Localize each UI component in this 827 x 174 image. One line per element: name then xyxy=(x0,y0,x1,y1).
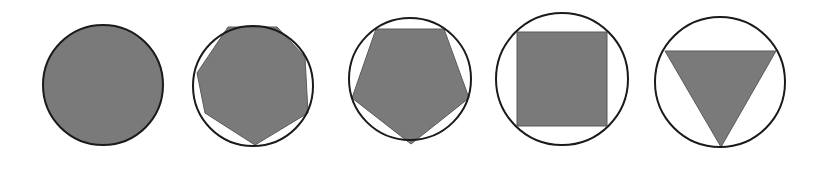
figure-triangle-in-circle xyxy=(655,17,785,147)
pentagon-shape xyxy=(352,29,469,144)
figure-pentagon-in-circle xyxy=(349,18,471,144)
figure-heptagon-in-circle xyxy=(193,26,313,146)
inscribed-polygons-diagram xyxy=(0,0,827,174)
figure-square-in-circle xyxy=(496,13,628,145)
square-shape xyxy=(517,32,607,126)
figure-filled-circle xyxy=(43,25,163,145)
diagram-canvas xyxy=(0,0,827,174)
filled-circle-shape xyxy=(43,25,163,145)
heptagon-shape xyxy=(197,27,308,145)
